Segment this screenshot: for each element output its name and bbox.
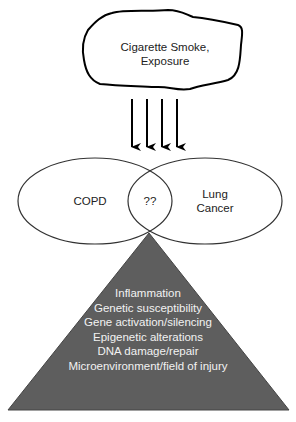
cloud-label: Cigarette Smoke, Exposure <box>95 40 235 68</box>
cloud-label-line2: Exposure <box>95 54 235 68</box>
lung-cancer-label: Lung Cancer <box>180 187 250 215</box>
overlap-label: ?? <box>130 194 170 208</box>
arrows <box>132 99 177 147</box>
mechanism-item: Genetic susceptibility <box>48 301 248 316</box>
mechanism-item: Epigenetic alterations <box>48 330 248 345</box>
mechanism-item: Gene activation/silencing <box>48 315 248 330</box>
mechanism-item: Inflammation <box>48 286 248 301</box>
lung-cancer-label-line2: Cancer <box>180 201 250 215</box>
mechanism-item: DNA damage/repair <box>48 344 248 359</box>
lung-cancer-label-line1: Lung <box>180 187 250 201</box>
cloud-label-line1: Cigarette Smoke, <box>95 40 235 54</box>
mechanism-item: Microenvironment/field of injury <box>48 359 248 374</box>
copd-label: COPD <box>55 194 125 208</box>
mechanisms-list: Inflammation Genetic susceptibility Gene… <box>48 286 248 374</box>
